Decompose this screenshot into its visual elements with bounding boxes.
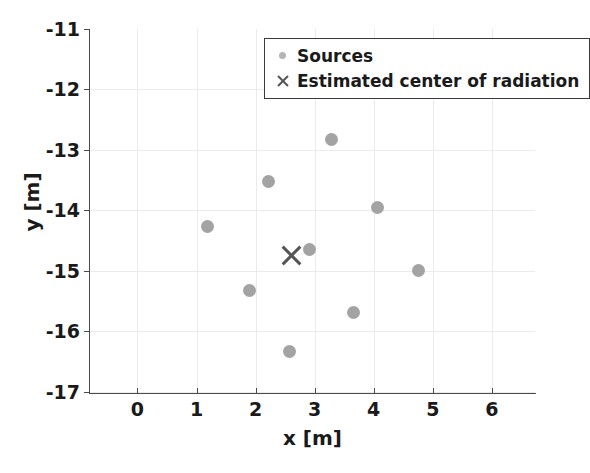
y-axis-line: [89, 29, 90, 394]
y-tick-label: -17: [20, 381, 80, 403]
y-axis-title: y [m]: [20, 132, 44, 272]
source-point-marker: [412, 264, 425, 277]
x-tick-label: 0: [117, 398, 157, 420]
x-tick-label: 2: [236, 398, 276, 420]
source-point-marker: [303, 243, 316, 256]
legend-box: Sources Estimated center of radiation: [264, 38, 590, 99]
source-point-marker: [325, 133, 338, 146]
legend-entry-sources: Sources: [271, 43, 579, 68]
circle-marker-icon: [271, 46, 297, 66]
x-tick-label: 4: [354, 398, 394, 420]
x-axis-line: [89, 393, 536, 394]
y-tick-label: -12: [20, 78, 80, 100]
estimated-center-marker: [279, 242, 305, 268]
x-marker-icon: [271, 71, 297, 91]
gridline-horizontal: [89, 210, 535, 211]
y-tick-label: -16: [20, 320, 80, 342]
x-tick-label: 1: [177, 398, 217, 420]
legend-label-sources: Sources: [297, 46, 373, 66]
legend-entry-estimated-center: Estimated center of radiation: [271, 68, 579, 93]
x-axis-title: x [m]: [89, 426, 536, 450]
legend-label-estimated-center: Estimated center of radiation: [297, 71, 579, 91]
gridline-horizontal: [89, 150, 535, 151]
x-tick-label: 5: [413, 398, 453, 420]
gridline-horizontal: [89, 331, 535, 332]
x-tick-label: 3: [295, 398, 335, 420]
gridline-horizontal: [89, 271, 535, 272]
x-tick-label: 6: [472, 398, 512, 420]
y-tick-label: -11: [20, 18, 80, 40]
